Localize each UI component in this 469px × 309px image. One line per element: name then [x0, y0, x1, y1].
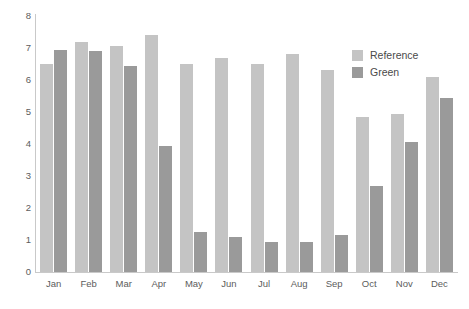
bar: [440, 98, 453, 272]
y-tick-label: 4: [5, 139, 31, 149]
bar: [40, 64, 53, 272]
bar: [75, 42, 88, 272]
bar-group: [317, 16, 352, 272]
bar: [229, 237, 242, 272]
y-tick-label: 7: [5, 43, 31, 53]
bar: [286, 54, 299, 272]
legend-swatch-icon: [352, 50, 363, 61]
x-tick-label: Nov: [387, 277, 422, 297]
bar: [405, 142, 418, 272]
bar: [194, 232, 207, 272]
chart-legend: ReferenceGreen: [352, 49, 418, 79]
bar: [426, 77, 439, 272]
y-tick-label: 1: [5, 235, 31, 245]
bar-group: [422, 16, 457, 272]
bar: [215, 58, 228, 272]
legend-label: Reference: [370, 50, 418, 61]
x-tick-label: Apr: [141, 277, 176, 297]
bar-group: [282, 16, 317, 272]
bar: [335, 235, 348, 272]
legend-swatch-icon: [352, 67, 363, 78]
bar: [159, 146, 172, 272]
bar: [321, 70, 334, 272]
bar: [110, 46, 123, 272]
y-tick-label: 8: [5, 11, 31, 21]
x-axis-tick-labels: JanFebMarAprMayJunJulAugSepOctNovDec: [36, 277, 457, 297]
bar-group: [36, 16, 71, 272]
bar-group: [106, 16, 141, 272]
y-tick-label: 0: [5, 267, 31, 277]
bar: [391, 114, 404, 272]
y-axis-tick-labels: 012345678: [0, 0, 31, 309]
y-tick-label: 2: [5, 203, 31, 213]
y-tick-label: 3: [5, 171, 31, 181]
bar: [124, 66, 137, 272]
bar-group: [176, 16, 211, 272]
bar-group: [141, 16, 176, 272]
x-tick-label: Dec: [422, 277, 457, 297]
bar-group: [71, 16, 106, 272]
x-tick-label: Mar: [106, 277, 141, 297]
legend-item[interactable]: Green: [352, 66, 418, 79]
x-tick-label: Jan: [36, 277, 71, 297]
bar-chart: 012345678 JanFebMarAprMayJunJulAugSepOct…: [0, 0, 469, 309]
bar-group: [211, 16, 246, 272]
bar: [265, 242, 278, 272]
x-tick-label: Feb: [71, 277, 106, 297]
legend-label: Green: [370, 67, 399, 78]
x-tick-label: Jul: [246, 277, 281, 297]
bar: [370, 186, 383, 272]
x-tick-label: Jun: [211, 277, 246, 297]
x-axis-spine: [35, 272, 458, 273]
bar: [251, 64, 264, 272]
bar: [89, 51, 102, 272]
x-tick-label: May: [176, 277, 211, 297]
bar-group: [247, 16, 282, 272]
x-tick-label: Sep: [317, 277, 352, 297]
bar: [54, 50, 67, 272]
x-tick-label: Oct: [352, 277, 387, 297]
bar: [356, 117, 369, 272]
y-tick-label: 5: [5, 107, 31, 117]
x-tick-label: Aug: [282, 277, 317, 297]
y-tick-label: 6: [5, 75, 31, 85]
bar: [180, 64, 193, 272]
bar: [145, 35, 158, 272]
bar: [300, 242, 313, 272]
legend-item[interactable]: Reference: [352, 49, 418, 62]
